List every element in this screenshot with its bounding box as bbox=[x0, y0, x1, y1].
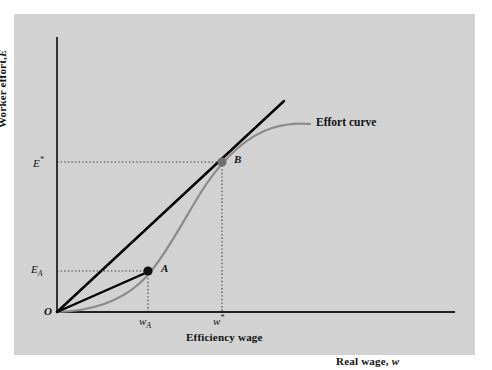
chord-ray-line bbox=[57, 271, 150, 312]
figure-canvas: Worker effort,E Efficiency wage Real wag… bbox=[0, 0, 492, 370]
axes-group bbox=[57, 37, 455, 312]
point-a-marker bbox=[143, 266, 152, 275]
point-b-marker bbox=[217, 157, 226, 166]
effort-curve-path bbox=[57, 123, 310, 312]
plot-drawing-layer bbox=[0, 0, 492, 370]
tangent-ray-line bbox=[57, 101, 284, 312]
